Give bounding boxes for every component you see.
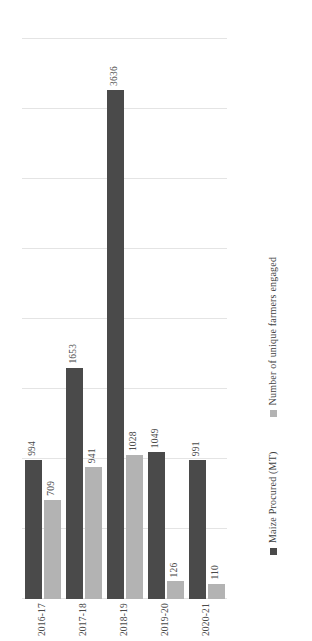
bar-2020-21-series2	[208, 584, 225, 599]
category-label-2018-19: 2018-19	[120, 603, 130, 637]
bar-2019-20-series2	[167, 581, 184, 599]
bar-2018-19-series1	[107, 90, 124, 599]
bar-2016-17-series1	[25, 460, 42, 599]
gridline	[22, 38, 227, 39]
gridline	[22, 318, 227, 319]
legend-label-maize-procured: Maize Procured (MT)	[268, 451, 278, 543]
plot-area: 9947091653941363610281049126991110 2016-…	[22, 39, 227, 599]
gridline	[22, 458, 227, 459]
bar-2019-20-series1	[148, 452, 165, 599]
bar-label-2018-19-series2: 1028	[129, 431, 139, 451]
category-label-2019-20: 2019-20	[161, 603, 171, 637]
bar-2017-18-series2	[85, 467, 102, 599]
gridline	[22, 388, 227, 389]
bar-label-2017-18-series1: 1653	[69, 344, 79, 364]
legend-swatch-maize-procured	[270, 548, 277, 555]
bar-label-2019-20-series1: 1049	[151, 428, 161, 448]
bar-chart-figure: 9947091653941363610281049126991110 2016-…	[0, 0, 312, 641]
category-label-2017-18: 2017-18	[79, 603, 89, 637]
category-label-2016-17: 2016-17	[38, 603, 48, 637]
bar-2016-17-series2	[44, 500, 61, 599]
bar-label-2016-17-series2: 709	[47, 481, 57, 496]
bar-label-2020-21-series1: 991	[192, 441, 202, 456]
gridline	[22, 108, 227, 109]
gridline	[22, 178, 227, 179]
chart-legend: Maize Procured (MT) Number of unique far…	[268, 257, 278, 555]
legend-swatch-farmers-engaged	[270, 410, 277, 417]
legend-item-farmers-engaged: Number of unique farmers engaged	[268, 257, 278, 418]
rotated-figure-wrapper: 9947091653941363610281049126991110 2016-…	[0, 0, 312, 641]
bar-label-2018-19-series1: 3636	[110, 66, 120, 86]
bar-label-2020-21-series2: 110	[211, 565, 221, 580]
bar-2018-19-series2	[126, 455, 143, 599]
bar-label-2019-20-series2: 126	[170, 563, 180, 578]
bar-2017-18-series1	[66, 368, 83, 599]
bar-label-2016-17-series1: 994	[28, 441, 38, 456]
bar-label-2017-18-series2: 941	[88, 448, 98, 463]
category-label-2020-21: 2020-21	[202, 603, 212, 637]
legend-item-maize-procured: Maize Procured (MT)	[268, 451, 278, 555]
legend-label-farmers-engaged: Number of unique farmers engaged	[268, 257, 278, 406]
bar-2020-21-series1	[189, 460, 206, 599]
gridline	[22, 248, 227, 249]
